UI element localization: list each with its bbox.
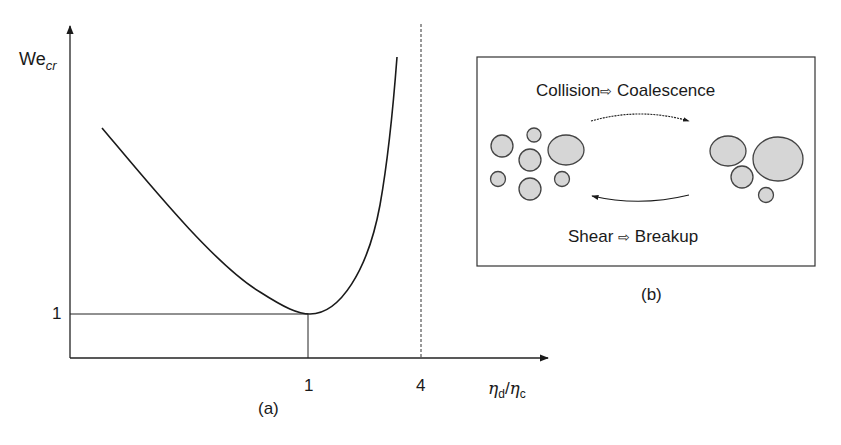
x-axis-label-den-sub: c <box>520 387 526 401</box>
droplet <box>548 135 584 165</box>
panel-a-caption: (a) <box>258 400 279 417</box>
droplet <box>555 172 570 187</box>
droplet <box>519 149 541 171</box>
droplet <box>491 135 513 157</box>
y-axis-label-sub: cr <box>46 58 57 73</box>
droplet <box>491 172 506 187</box>
x-tick-1: 1 <box>304 377 313 394</box>
y-tick-1: 1 <box>52 305 61 322</box>
y-axis-label-main: We <box>19 49 46 69</box>
droplet <box>759 188 774 203</box>
panel-a-axes <box>70 24 548 358</box>
x-tick-4: 4 <box>416 377 425 394</box>
droplet <box>527 128 541 142</box>
droplet <box>753 137 803 181</box>
x-axis-label-num-sub: d <box>498 387 505 401</box>
x-axis-label-num: η <box>488 378 498 398</box>
coalescence-text: Coalescence <box>617 81 715 100</box>
x-axis-label-den: η <box>510 378 520 398</box>
shear-text: Shear <box>568 227 613 246</box>
collision-text: Collision <box>536 81 600 100</box>
panel-b-caption: (b) <box>641 286 662 303</box>
we-critical-curve <box>102 57 397 314</box>
droplet <box>710 136 746 166</box>
arrow-right-icon: ⇨ <box>600 83 612 99</box>
bottom-process-label: Shear ⇨ Breakup <box>568 228 698 245</box>
droplet <box>519 178 541 200</box>
y-axis-label: Wecr <box>19 50 57 68</box>
droplet <box>731 166 753 188</box>
arrow-right-icon: ⇨ <box>618 229 630 245</box>
top-process-label: Collision⇨ Coalescence <box>536 82 715 99</box>
breakup-text: Breakup <box>635 227 698 246</box>
x-axis-label: ηd/ηc <box>488 380 526 397</box>
